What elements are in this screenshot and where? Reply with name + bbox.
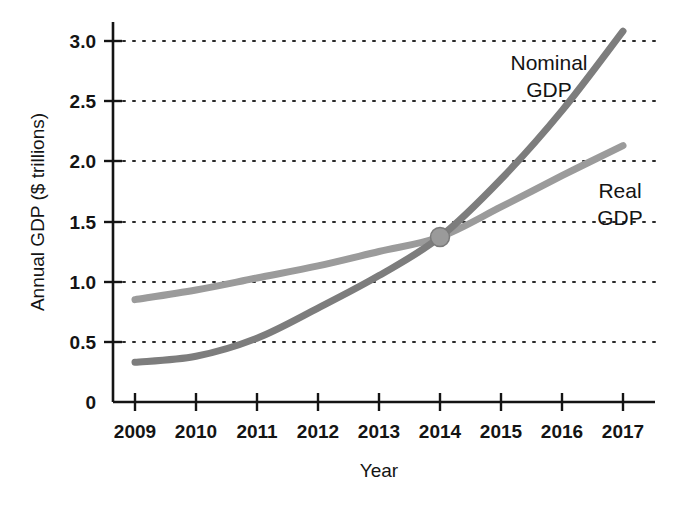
real-gdp-label-line1: Real <box>598 179 641 202</box>
intersection-point-marker <box>431 228 450 247</box>
y-tick-label-1-5: 1.5 <box>70 212 97 233</box>
y-axis-title: Annual GDP ($ trillions) <box>27 113 48 311</box>
x-tick-label-2012: 2012 <box>297 421 339 442</box>
chart-canvas: 3.0 2.5 2.0 1.5 1.0 0.5 0 2009 2010 2011… <box>0 0 681 505</box>
y-tick-label-3-0: 3.0 <box>70 31 96 52</box>
y-tick-label-0-5: 0.5 <box>70 332 97 353</box>
x-tick-label-2015: 2015 <box>480 421 523 442</box>
nominal-gdp-label-line2: GDP <box>526 78 572 101</box>
x-axis-tick-labels: 2009 2010 2011 2012 2013 2014 2015 2016 … <box>114 421 644 442</box>
y-tick-label-0: 0 <box>85 392 96 413</box>
x-tick-label-2010: 2010 <box>175 421 217 442</box>
x-axis-title: Year <box>360 460 399 481</box>
x-tick-label-2009: 2009 <box>114 421 156 442</box>
y-tick-label-2-5: 2.5 <box>70 91 97 112</box>
x-tick-label-2013: 2013 <box>358 421 400 442</box>
y-tick-label-2-0: 2.0 <box>70 151 96 172</box>
gdp-chart-figure: 3.0 2.5 2.0 1.5 1.0 0.5 0 2009 2010 2011… <box>0 0 681 505</box>
x-tick-label-2017: 2017 <box>602 421 644 442</box>
x-tick-label-2014: 2014 <box>419 421 462 442</box>
x-tick-label-2011: 2011 <box>236 421 278 442</box>
real-gdp-label-line2: GDP <box>597 206 643 229</box>
y-tick-label-1-0: 1.0 <box>70 272 96 293</box>
x-tick-label-2016: 2016 <box>541 421 583 442</box>
nominal-gdp-label-line1: Nominal <box>510 51 587 74</box>
